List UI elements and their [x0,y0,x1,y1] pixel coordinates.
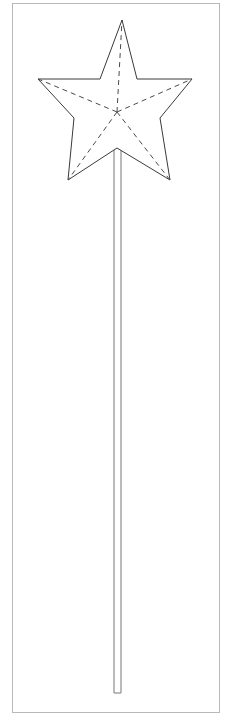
template-page [0,0,234,723]
wand-stick [114,148,121,693]
star-wand-artboard [0,0,234,723]
star-outline [38,20,192,180]
